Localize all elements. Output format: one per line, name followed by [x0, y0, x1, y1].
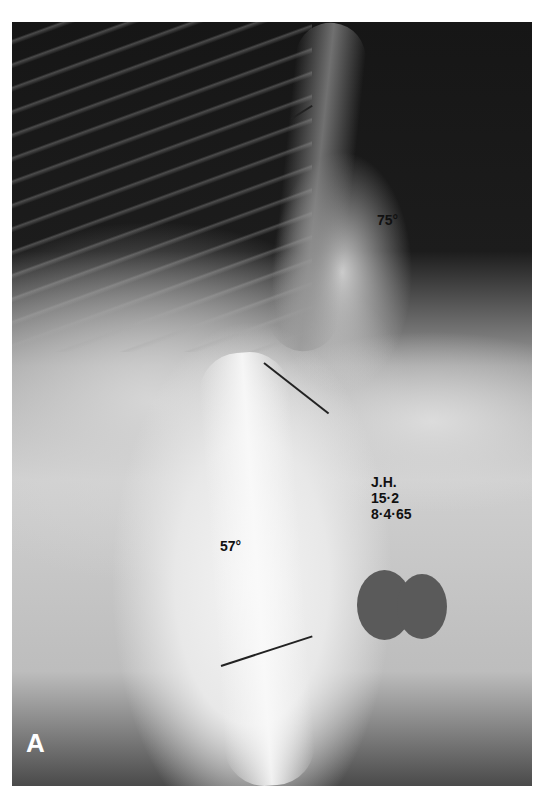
bowel-gas [397, 574, 447, 639]
upper-curve-angle: 75° [377, 212, 398, 228]
exam-date: 8·4·65 [371, 506, 411, 522]
panel-label: A [26, 728, 45, 759]
lumbar-spine [197, 349, 317, 786]
patient-age: 15·2 [371, 490, 399, 506]
xray-image: 75° 57° J.H. 15·2 8·4·65 A [12, 22, 532, 786]
lower-curve-angle: 57° [220, 538, 241, 554]
rib-cage [12, 22, 312, 352]
patient-initials: J.H. [371, 474, 397, 490]
